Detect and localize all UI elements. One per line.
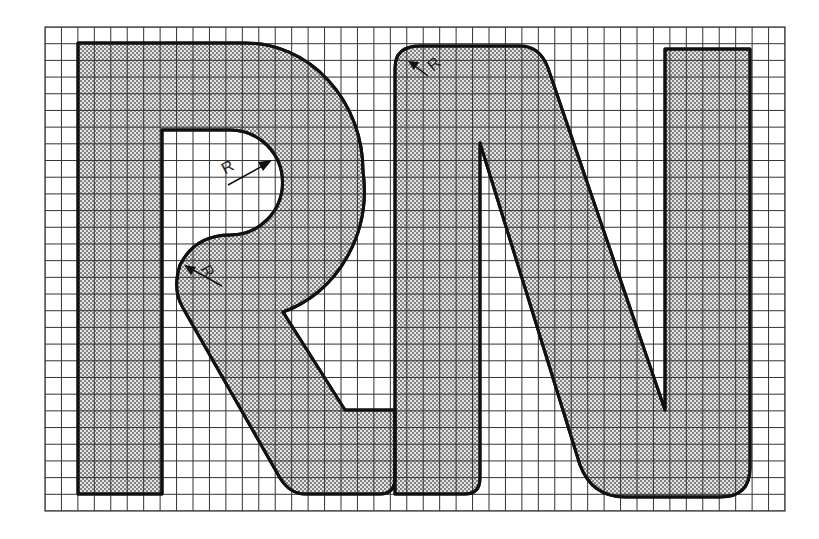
radius-label: R <box>219 157 237 177</box>
letterform-diagram: R R R <box>0 0 819 539</box>
letter-n-shape <box>395 46 750 497</box>
figure: R R R <box>0 0 819 539</box>
